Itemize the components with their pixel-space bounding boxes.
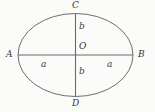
semi-minor-label-bottom: b [79,67,85,76]
semi-major-label-right: a [107,60,112,69]
ellipse-diagram: A B C D O a a b b [0,0,155,112]
vertex-label-c: C [72,1,79,10]
diagram-canvas [0,0,155,112]
vertex-label-b: B [138,50,145,59]
semi-minor-label-top: b [79,22,85,31]
vertex-label-d: D [72,99,79,108]
vertex-label-a: A [6,50,13,59]
semi-major-label-left: a [41,60,46,69]
center-label-o: O [79,42,86,51]
